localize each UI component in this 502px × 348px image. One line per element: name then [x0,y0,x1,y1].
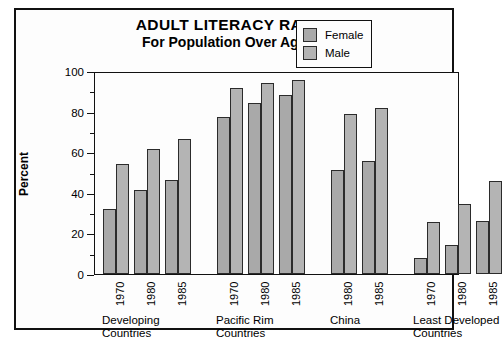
x-group-label: Least DevelopedCountries [413,314,499,340]
legend-item-male: Male [303,44,363,62]
bar-female [476,221,489,274]
bar-male [344,114,357,274]
legend-item-female: Female [303,26,363,44]
bar-male [375,108,388,274]
legend-label-female: Female [325,29,363,41]
x-group-label: China [330,314,360,327]
x-group-label-line: Least Developed [413,314,499,327]
chart-title-block: ADULT LITERACY RATES For Population Over… [16,16,452,51]
y-tick-label: 40 [71,188,84,200]
y-tick-major [87,113,94,114]
x-tick-label-year: 1970 [228,282,240,306]
x-tick-label-year: 1980 [145,282,157,306]
bar-female [217,117,230,274]
y-tick-major [87,234,94,235]
bar-female [279,95,292,274]
bar-male [458,204,471,274]
chart-frame: ADULT LITERACY RATES For Population Over… [14,8,454,330]
y-tick-label: 20 [71,228,84,240]
bar-female [414,258,427,274]
bar-male [292,80,305,274]
x-axis: 197019801985DevelopingCountries197019801… [94,276,459,348]
bar-female [103,209,116,274]
page-title: ADULT LITERACY RATES [16,16,452,34]
x-tick-label-year: 1980 [259,282,271,306]
bar-female [165,180,178,274]
bar-male [147,149,160,274]
x-tick-label-year: 1970 [425,282,437,306]
bar-female [445,245,458,274]
bar-female [134,190,147,274]
y-tick-label: 0 [78,269,84,281]
chart-subtitle: For Population Over Age 14 [16,34,452,51]
y-tick-major [87,72,94,73]
bar-male [261,83,274,274]
x-group-label-line: Developing [102,314,160,327]
x-group-label-line: Countries [102,327,160,340]
x-group-label-line: Pacific Rim [216,314,274,327]
x-group-label-line: China [330,314,360,327]
y-tick-major [87,194,94,195]
x-tick-label-year: 1970 [114,282,126,306]
y-axis-label: Percent [17,151,31,195]
bar-female [362,161,375,274]
legend-swatch-male-icon [303,46,317,60]
y-tick-major [87,275,94,276]
y-tick-label: 100 [65,66,84,78]
x-group-label: DevelopingCountries [102,314,160,340]
bar-female [331,170,344,274]
bar-male [178,139,191,274]
y-tick-label: 80 [71,107,84,119]
x-tick-label-year: 1985 [176,282,188,306]
x-tick-label-year: 1985 [373,282,385,306]
plot-area [94,72,459,275]
x-tick-label-year: 1980 [342,282,354,306]
bar-male [116,164,129,274]
y-tick-major [87,153,94,154]
x-tick-label-year: 1980 [456,282,468,306]
legend-label-male: Male [325,47,350,59]
x-tick-label-year: 1985 [290,282,302,306]
x-group-label-line: Countries [216,327,274,340]
bar-female [248,103,261,274]
bar-male [489,181,502,274]
chart-legend: Female Male [296,20,372,68]
bars-container [95,73,458,274]
bar-male [230,88,243,274]
legend-swatch-female-icon [303,28,317,42]
x-group-label-line: Countries [413,327,499,340]
y-axis: Percent 020406080100 [16,72,94,275]
x-tick-label-year: 1985 [487,282,499,306]
x-group-label: Pacific RimCountries [216,314,274,340]
bar-male [427,222,440,274]
y-tick-label: 60 [71,147,84,159]
